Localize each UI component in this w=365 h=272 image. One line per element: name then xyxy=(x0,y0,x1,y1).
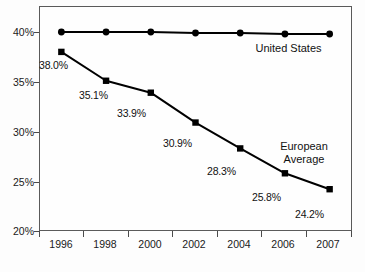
data-label-2000: 33.9% xyxy=(117,107,146,119)
data-point-marker xyxy=(103,29,110,36)
data-label-2004: 28.3% xyxy=(207,165,236,177)
chart-container: 40% 35% 30% 25% 20% 1996 1998 2000 2002 … xyxy=(0,0,365,272)
series-annotation-united-states: United States xyxy=(236,42,341,55)
data-point-marker xyxy=(58,49,64,55)
series-layer xyxy=(0,0,365,272)
data-point-marker xyxy=(237,145,243,151)
data-point-marker xyxy=(237,30,244,37)
data-point-marker xyxy=(58,29,65,36)
data-label-1998: 35.1% xyxy=(79,89,108,101)
data-point-marker xyxy=(147,29,154,36)
data-point-marker xyxy=(192,30,199,37)
series-united-states xyxy=(58,29,333,38)
series-annotation-european-average-line2: Average xyxy=(264,153,344,166)
data-point-marker xyxy=(103,78,109,84)
data-label-1996: 38.0% xyxy=(39,59,68,71)
data-point-marker xyxy=(326,31,333,38)
data-point-marker xyxy=(282,170,288,176)
data-label-2006: 25.8% xyxy=(252,191,281,203)
data-label-2007: 24.2% xyxy=(295,208,324,220)
data-point-marker xyxy=(148,90,154,96)
data-label-2002: 30.9% xyxy=(163,137,192,149)
series-annotation-european-average-line1: European xyxy=(264,140,344,153)
series-european-average xyxy=(58,49,333,193)
data-point-marker xyxy=(192,119,198,125)
series-annotation-european-average: European Average xyxy=(264,140,344,166)
data-point-marker xyxy=(282,31,289,38)
data-point-marker xyxy=(326,186,332,192)
